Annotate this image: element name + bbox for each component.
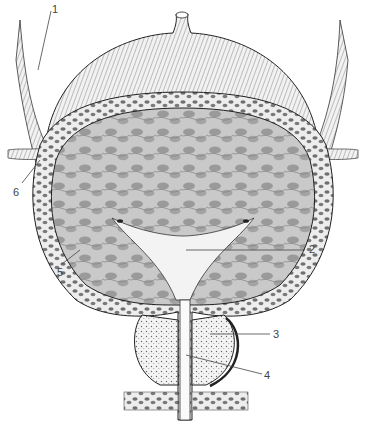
left-ureteric-orifice: [117, 219, 123, 223]
label-5: 5: [57, 267, 63, 278]
leader-1: [38, 11, 51, 70]
bladder-lumen: [51, 108, 314, 305]
label-2: 2: [309, 244, 315, 255]
label-4: 4: [264, 370, 270, 381]
right-ureteric-orifice: [243, 219, 249, 223]
label-3: 3: [273, 329, 279, 340]
label-1: 1: [52, 4, 58, 15]
label-6: 6: [13, 187, 19, 198]
urethra: [180, 300, 190, 420]
bladder-prostate-illustration: [0, 0, 366, 422]
